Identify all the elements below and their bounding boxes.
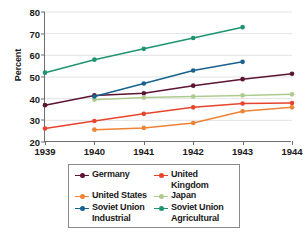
data-point xyxy=(92,94,97,99)
data-point xyxy=(191,36,196,41)
data-point xyxy=(240,25,245,30)
data-point xyxy=(191,83,196,88)
data-point xyxy=(240,101,245,106)
data-point xyxy=(43,103,48,108)
x-tick-mark xyxy=(94,141,95,145)
x-tick-label: 1944 xyxy=(281,146,302,157)
y-tick-label: 50 xyxy=(29,72,40,83)
series-line xyxy=(94,107,292,129)
y-tick-label: 60 xyxy=(29,50,40,61)
data-point xyxy=(142,126,147,131)
series-line xyxy=(45,74,292,105)
y-tick-label: 80 xyxy=(29,7,40,18)
data-point xyxy=(92,57,97,62)
data-point xyxy=(92,119,97,124)
y-tick-mark xyxy=(41,33,45,34)
x-tick-label: 1943 xyxy=(232,146,253,157)
x-tick-label: 1942 xyxy=(183,146,204,157)
data-point xyxy=(290,92,295,97)
legend-item-united-states[interactable]: United States xyxy=(75,190,154,202)
chart-figure: Percent 20304050607080 19391940194119421… xyxy=(0,0,307,232)
legend-marker-icon xyxy=(75,191,89,202)
x-tick-label: 1940 xyxy=(84,146,105,157)
data-point xyxy=(43,126,48,131)
legend-item-japan[interactable]: Japan xyxy=(154,190,233,202)
data-point xyxy=(240,109,245,114)
data-point xyxy=(191,105,196,110)
y-tick-mark xyxy=(41,12,45,13)
data-point xyxy=(240,60,245,65)
data-point xyxy=(240,77,245,82)
y-tick-label: 40 xyxy=(29,93,40,104)
y-tick-label: 70 xyxy=(29,28,40,39)
data-point xyxy=(43,70,48,75)
legend-marker-icon xyxy=(154,170,168,181)
series-layer xyxy=(43,25,295,132)
y-tick-mark xyxy=(41,98,45,99)
legend-label: Germany xyxy=(92,169,130,180)
x-tick-mark xyxy=(292,141,293,145)
data-point xyxy=(92,127,97,132)
legend-marker-icon xyxy=(75,170,89,181)
x-tick-mark xyxy=(144,141,145,145)
data-point xyxy=(290,71,295,76)
y-tick-mark xyxy=(41,120,45,121)
plot-area: 20304050607080 193919401941194219431944 xyxy=(44,12,291,142)
y-tick-label: 30 xyxy=(29,115,40,126)
legend-item-soviet-union-agricultural[interactable]: Soviet UnionAgricultural xyxy=(154,202,233,223)
data-point xyxy=(191,68,196,73)
x-tick-mark xyxy=(193,141,194,145)
data-point xyxy=(240,93,245,98)
legend-label: United Kingdom xyxy=(171,169,233,190)
legend-marker-icon xyxy=(154,191,168,202)
legend-item-soviet-union-industrial[interactable]: Soviet UnionIndustrial xyxy=(75,202,154,223)
data-point xyxy=(142,112,147,117)
y-tick-mark xyxy=(41,77,45,78)
legend-label: Soviet UnionIndustrial xyxy=(92,202,145,223)
series-line xyxy=(94,62,242,97)
legend-item-united-kingdom[interactable]: United Kingdom xyxy=(154,169,233,190)
legend-row: Germany United Kingdom xyxy=(75,169,233,190)
x-tick-label: 1941 xyxy=(133,146,154,157)
x-tick-mark xyxy=(45,141,46,145)
data-point xyxy=(191,94,196,99)
legend-label: Japan xyxy=(171,190,196,201)
data-point xyxy=(142,81,147,86)
series-united-kingdom xyxy=(43,101,295,131)
legend-row: United States Japan xyxy=(75,190,233,202)
legend-row: Soviet UnionIndustrial Soviet UnionAgric… xyxy=(75,202,233,223)
chart-legend: Germany United Kingdom United States Jap… xyxy=(68,164,240,228)
legend-marker-icon xyxy=(154,203,168,214)
data-point xyxy=(142,91,147,96)
series-soviet-union-industrial xyxy=(92,60,245,99)
legend-marker-icon xyxy=(75,203,89,214)
legend-label: United States xyxy=(92,190,147,201)
legend-item-germany[interactable]: Germany xyxy=(75,169,154,190)
y-tick-mark xyxy=(41,55,45,56)
data-point xyxy=(290,105,295,110)
data-point xyxy=(290,101,295,106)
data-point xyxy=(142,95,147,100)
data-point xyxy=(142,47,147,52)
plot-svg xyxy=(45,12,292,142)
legend-label: Soviet UnionAgricultural xyxy=(171,202,224,223)
x-tick-label: 1939 xyxy=(34,146,55,157)
gridlines xyxy=(45,12,292,120)
y-axis-title: Percent xyxy=(13,20,23,110)
data-point xyxy=(191,121,196,126)
x-tick-mark xyxy=(243,141,244,145)
